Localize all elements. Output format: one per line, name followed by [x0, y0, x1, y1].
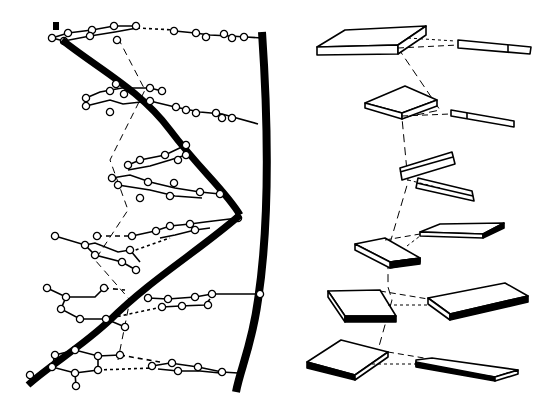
- base-pair-2: [82, 80, 258, 124]
- slab-pair-5: [328, 283, 528, 322]
- base-pair-1: [48, 22, 262, 44]
- base-pair-5: [43, 284, 263, 330]
- base-pair-6: [26, 346, 238, 389]
- slab-pair-3: [400, 152, 474, 201]
- dna-helix-figure: Side-by-side illustration of a DNA doubl…: [0, 0, 552, 405]
- slab-pair-4: [355, 223, 504, 268]
- slab-pair-1: [317, 26, 531, 55]
- strand-end-cap: [53, 22, 59, 30]
- backbone-strand-left-upper: [62, 40, 240, 215]
- figure-svg: [0, 0, 552, 405]
- slab-pair-6: [307, 340, 518, 381]
- left-panel-helix: [26, 22, 266, 392]
- right-panel-slabs: [307, 26, 531, 381]
- slab-pair-2: [365, 86, 514, 127]
- base-pair-4: [51, 214, 241, 273]
